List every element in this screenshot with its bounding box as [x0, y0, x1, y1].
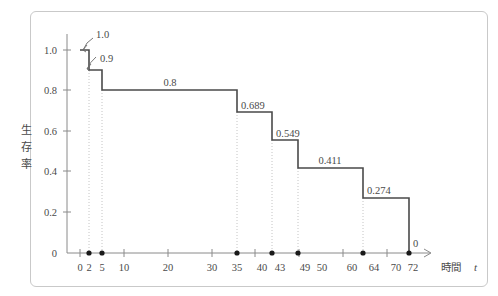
event-marker-t72 [406, 250, 411, 255]
x-tick-label-70: 70 [391, 262, 402, 273]
y-tick-label-0.4: 0.4 [44, 166, 58, 177]
x-axis-title-variable: t [474, 261, 478, 273]
event-marker-t5 [99, 250, 104, 255]
step-label-0.9: 0.9 [100, 53, 113, 64]
y-tick-label-0.2: 0.2 [44, 207, 57, 218]
y-tick-label-0: 0 [52, 248, 57, 259]
x-tick-label-30: 30 [207, 262, 218, 273]
event-marker-t35 [234, 250, 239, 255]
survival-step-curve [80, 50, 409, 253]
y-tick-label-1.0: 1.0 [44, 45, 57, 56]
x-tick-label-2: 2 [86, 262, 91, 273]
x-tick-label-5: 5 [99, 262, 104, 273]
chart-figure: 生 存 率 1.0 0.8 0.6 0.4 0.2 0 [0, 0, 498, 296]
x-tick-label-43: 43 [275, 262, 286, 273]
step-label-0.274: 0.274 [367, 185, 391, 196]
x-tick-label-35: 35 [232, 262, 243, 273]
y-tick-label-0.8: 0.8 [44, 85, 57, 96]
x-tick-label-40: 40 [257, 262, 268, 273]
event-marker-t43 [269, 250, 274, 255]
event-marker-t64 [360, 250, 365, 255]
event-marker-t2 [86, 250, 91, 255]
x-tick-label-10: 10 [119, 262, 130, 273]
survival-plot: 1.0 0.8 0.6 0.4 0.2 0 0 2 5 10 20 30 35 … [0, 0, 498, 296]
x-tick-label-64: 64 [369, 262, 380, 273]
x-tick-label-60: 60 [347, 262, 358, 273]
x-tick-label-72: 72 [408, 262, 419, 273]
x-tick-label-49: 49 [300, 262, 311, 273]
step-label-1.0: 1.0 [96, 29, 109, 40]
x-tick-label-20: 20 [163, 262, 174, 273]
step-label-0.549: 0.549 [276, 128, 300, 139]
step-label-0.689: 0.689 [241, 100, 265, 111]
event-marker-t49 [295, 250, 300, 255]
x-tick-label-50: 50 [317, 262, 328, 273]
y-tick-label-0.6: 0.6 [44, 126, 57, 137]
step-label-0.8: 0.8 [163, 77, 176, 88]
x-axis-title: 時間 [441, 261, 461, 273]
step-label-0.411: 0.411 [318, 155, 341, 166]
x-tick-label-0: 0 [77, 262, 82, 273]
step-label-0: 0 [413, 238, 418, 249]
